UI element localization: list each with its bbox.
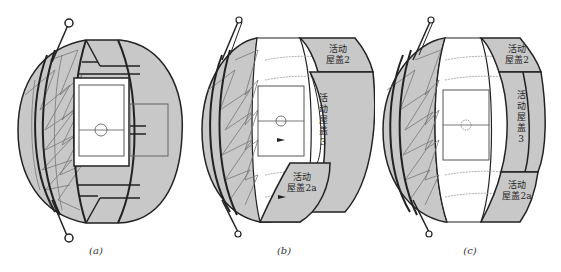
panel-label-c: (c) [450, 245, 490, 256]
mast-top-node-icon [65, 19, 73, 27]
mast-top-node-icon [428, 17, 434, 23]
roof-label-2a: 活动 屋盖2a [282, 172, 322, 194]
mast-bottom-node-icon [235, 231, 241, 237]
panel-label-a: (a) [76, 245, 116, 256]
stadium-diagram-a [0, 0, 190, 250]
roof-label-2a: 活动 屋盖2a [497, 180, 537, 202]
mast-bottom-node-icon [65, 234, 73, 242]
mast-top-node-icon [236, 17, 242, 23]
panel-a: (a) [0, 0, 190, 250]
panel-label-b: (b) [264, 245, 304, 256]
roof-label-2: 活动 屋盖2 [497, 44, 537, 66]
panel-c: 活动 屋盖2 活 动 屋 盖 3 活动 屋盖2a (c) [375, 0, 561, 250]
mast-bottom-node-icon [426, 231, 432, 237]
roof-label-3: 活 动 屋 盖 3 [317, 93, 329, 148]
stadium-diagram-b [190, 0, 375, 250]
roof-label-3: 活 动 屋 盖 3 [515, 90, 527, 145]
stadium-diagram-c [375, 0, 561, 250]
roof-label-2: 活动 屋盖2 [318, 44, 358, 66]
panel-b: 活动 屋盖2 活 动 屋 盖 3 活动 屋盖2a (b) [190, 0, 375, 250]
